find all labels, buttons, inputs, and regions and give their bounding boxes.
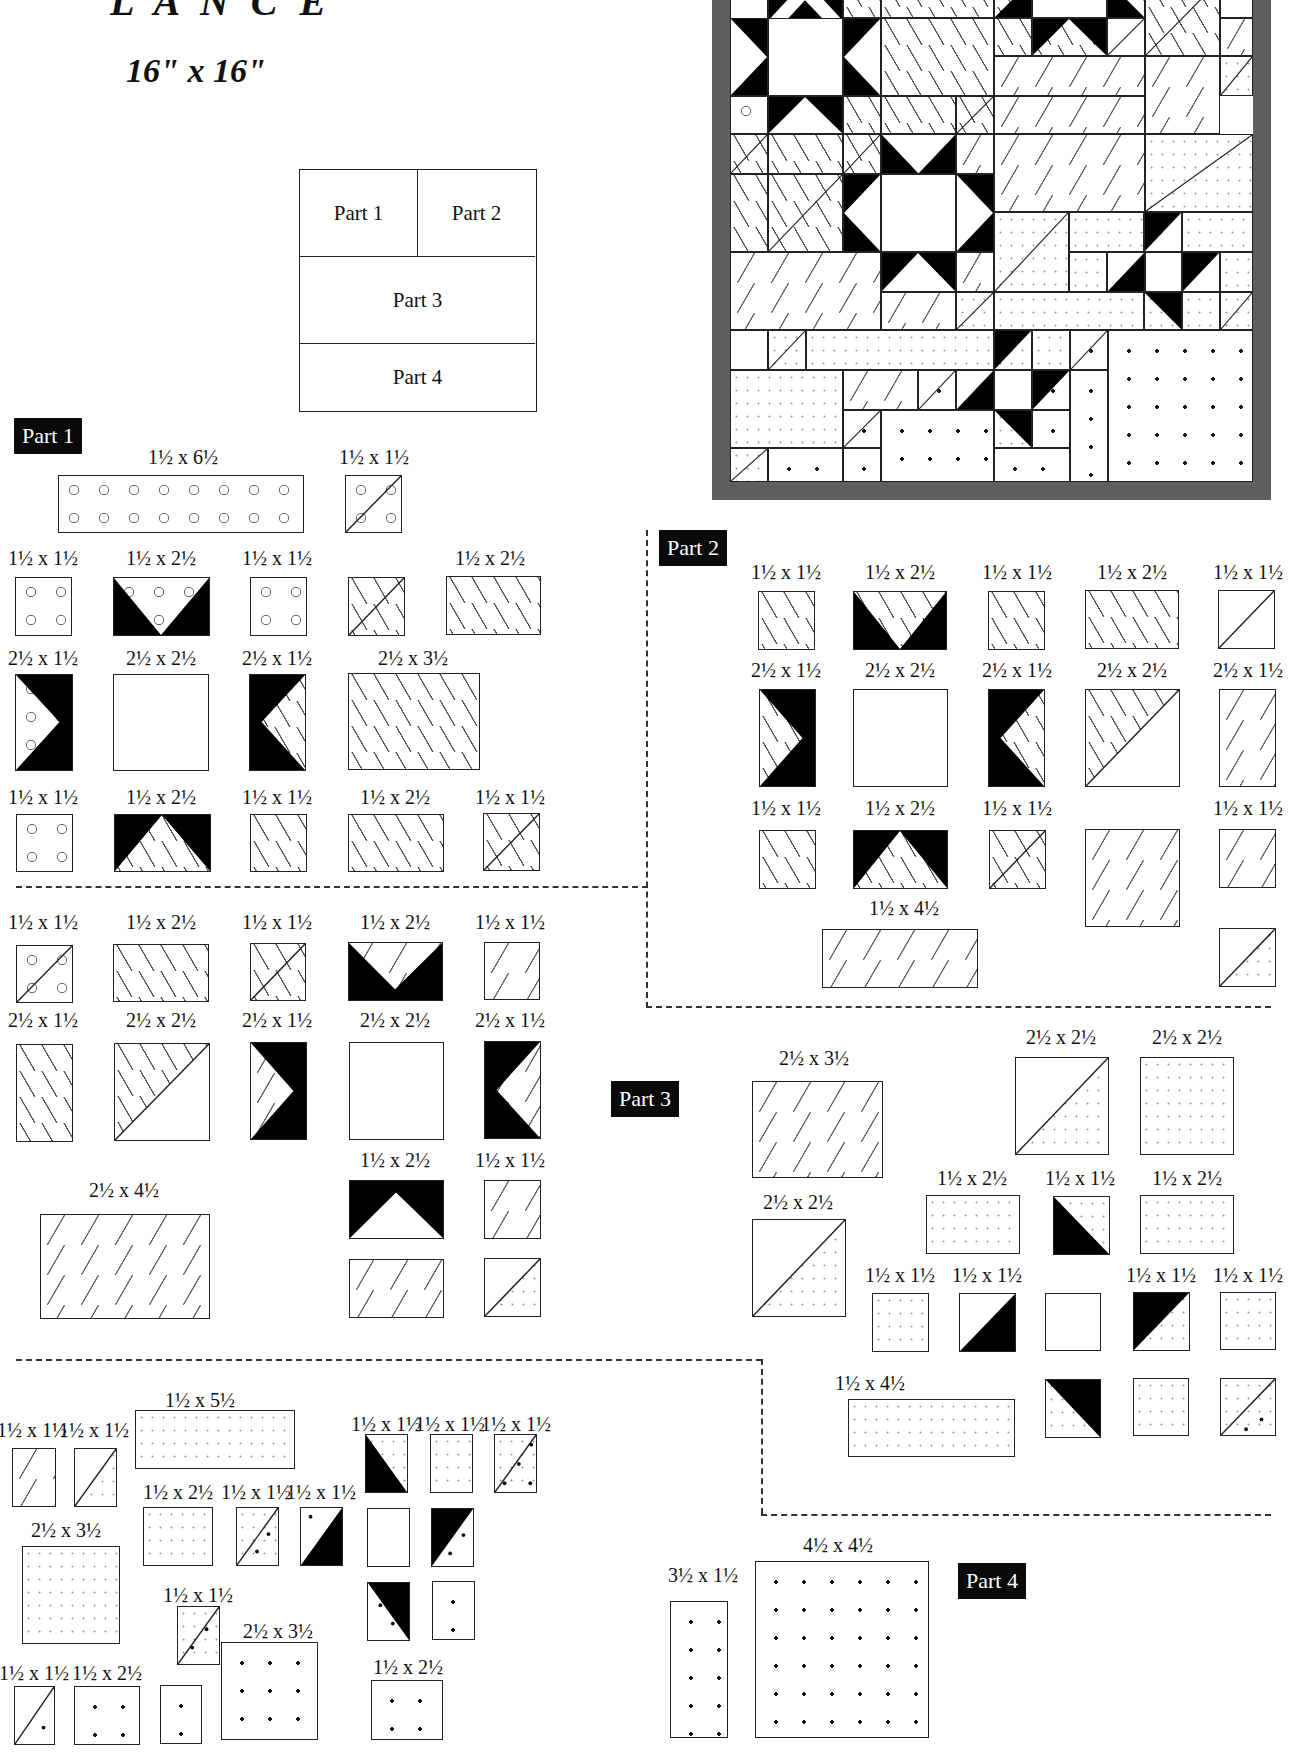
quilt-patch [1032, 330, 1070, 370]
piece-size-label: 1½ x 5½ [165, 1390, 235, 1410]
section-divider [761, 1359, 763, 1514]
piece-rect [670, 1601, 728, 1738]
piece-square [1220, 1292, 1276, 1350]
piece-size-label: 2½ x 2½ [1152, 1027, 1222, 1047]
piece-size-label: 2½ x 2½ [865, 660, 935, 680]
piece-size-label: 1½ x 1½ [1126, 1265, 1196, 1285]
piece-flying-geese [349, 1180, 444, 1239]
layout-cell-part2: Part 2 [418, 170, 535, 257]
quilt-patch [806, 330, 994, 370]
quilt-star-point [843, 174, 881, 252]
piece-size-label: 2½ x 1½ [8, 1010, 78, 1030]
piece-half-square [177, 1606, 220, 1665]
piece-square [759, 830, 816, 889]
piece-size-label: 1½ x 1½ [286, 1482, 356, 1502]
piece-size-label: 1½ x 2½ [126, 548, 196, 568]
piece-size-label: 2½ x 3½ [31, 1520, 101, 1540]
piece-size-label: 1½ x 1½ [163, 1585, 233, 1605]
quilt-star-point [1182, 252, 1220, 292]
piece-size-label: 2½ x 1½ [1213, 660, 1283, 680]
quilt-half-square [994, 212, 1069, 292]
quilt-star-point [1032, 370, 1070, 410]
quilt-star-point [994, 330, 1032, 370]
piece-rect [16, 1044, 73, 1142]
piece-half-square [1085, 689, 1180, 787]
piece-flying-geese [15, 674, 73, 771]
piece-half-square [1133, 1292, 1190, 1351]
quilt-patch [843, 0, 881, 18]
piece-size-label: 2½ x 1½ [982, 660, 1052, 680]
quilt-patch [994, 96, 1145, 134]
quilt-half-square [843, 134, 881, 174]
quilt-star-point [994, 0, 1032, 18]
piece-half-square [365, 1434, 408, 1493]
quilt-star-point [994, 410, 1032, 448]
piece-size-label: 1½ x 2½ [72, 1663, 142, 1683]
piece-size-label: 1½ x 2½ [937, 1168, 1007, 1188]
piece-size-label: 2½ x 2½ [126, 648, 196, 668]
quilt-half-square [1220, 292, 1253, 330]
piece-half-square [431, 1508, 474, 1567]
quilt-patch [730, 330, 768, 370]
piece-size-label: 1½ x 1½ [982, 562, 1052, 582]
quilt-star-point [768, 96, 843, 134]
quilt-patch [1145, 0, 1220, 56]
piece-flying-geese [484, 1041, 541, 1139]
quilt-top [730, 0, 1253, 482]
piece-rect [135, 1410, 295, 1469]
piece-half-square [348, 577, 405, 636]
quilt-patch [881, 0, 994, 18]
piece-rect [848, 1399, 1015, 1457]
piece-size-label: 1½ x 1½ [339, 447, 409, 467]
quilt-patch [881, 292, 956, 330]
piece-rect [752, 1081, 883, 1178]
piece-size-label: 1½ x 1½ [1213, 562, 1283, 582]
piece-square [758, 591, 815, 650]
piece-flying-geese [348, 942, 443, 1001]
piece-size-label: 2½ x 1½ [751, 660, 821, 680]
piece-square-plain [1045, 1293, 1101, 1351]
quilt-patch [1070, 370, 1108, 482]
quilt-patch [1145, 56, 1220, 134]
quilt-star-point [730, 18, 768, 96]
piece-size-label: 1½ x 1½ [952, 1265, 1022, 1285]
piece-half-square [494, 1434, 537, 1493]
quilt-patch [994, 448, 1070, 482]
piece-size-label: 2½ x 2½ [1097, 660, 1167, 680]
piece-half-square [345, 475, 402, 533]
piece-size-label: 1½ x 1½ [475, 1150, 545, 1170]
piece-size-label: 4½ x 4½ [803, 1535, 873, 1555]
piece-flying-geese [853, 591, 947, 650]
quilt-star-center [768, 18, 843, 96]
piece-rect [348, 673, 480, 770]
piece-half-square [16, 945, 73, 1003]
piece-flying-geese [853, 830, 948, 889]
piece-half-square [752, 1219, 846, 1317]
piece-size-label: 1½ x 2½ [1152, 1168, 1222, 1188]
quilt-patch [994, 18, 1032, 56]
piece-rect [74, 1686, 140, 1745]
quilt-half-square [768, 174, 843, 252]
quilt-star-point [1144, 292, 1182, 330]
quilt-patch [1220, 0, 1253, 18]
piece-half-square [1045, 1379, 1101, 1438]
piece-rect [1219, 689, 1276, 787]
part2-label: Part 2 [659, 530, 727, 566]
piece-square [12, 1448, 56, 1507]
piece-square [484, 1180, 541, 1239]
quilt-half-square [730, 134, 768, 174]
quilt-half-square [843, 410, 881, 448]
piece-size-label: 1½ x 1½ [481, 1414, 551, 1434]
quilt-patch [1108, 330, 1253, 482]
piece-flying-geese [988, 689, 1045, 787]
piece-half-square [1220, 1378, 1276, 1436]
piece-square [484, 942, 540, 1000]
quilt-star-center [881, 174, 956, 252]
piece-size-label: 2½ x 2½ [126, 1010, 196, 1030]
quilt-star-point [843, 18, 881, 96]
piece-size-label: 1½ x 1½ [8, 787, 78, 807]
piece-rect [822, 929, 978, 988]
quilt-patch [881, 96, 956, 134]
quilt-patch [1032, 410, 1070, 448]
quilt-half-square [1107, 18, 1145, 56]
